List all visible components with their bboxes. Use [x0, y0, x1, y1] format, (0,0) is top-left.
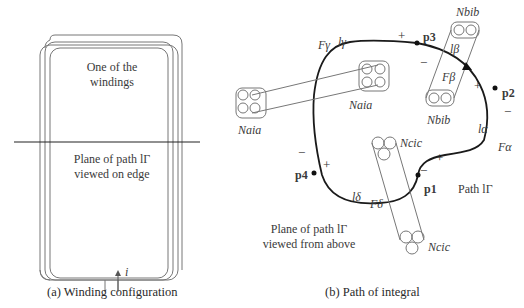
winding-b-bottom-label: Nbib — [427, 113, 450, 127]
segment-beta-l: lβ — [450, 42, 459, 56]
point-p4: p4 — [295, 168, 308, 182]
sign-minus-alpha: − — [504, 104, 511, 120]
plane-above-label-line1: Plane of path lΓ — [249, 222, 369, 236]
plane-edge-label-line1: Plane of path lΓ — [52, 152, 172, 166]
winding-b-top-label: Nbib — [456, 5, 479, 19]
current-label: i — [125, 265, 128, 279]
plane-above-label-line2: viewed from above — [249, 237, 369, 251]
sign-plus-gamma: + — [398, 28, 405, 44]
winding-c-top-label: Ncic — [400, 136, 422, 150]
sign-minus-gamma: − — [298, 145, 305, 161]
segment-alpha-F: Fα — [498, 140, 512, 154]
point-p3: p3 — [423, 30, 436, 44]
segment-delta-l: lδ — [352, 190, 361, 204]
sign-minus-beta: − — [420, 55, 427, 71]
integration-path — [313, 41, 487, 204]
plane-edge-label-line2: viewed on edge — [52, 167, 172, 181]
winding-a-right-label: Naia — [349, 98, 372, 112]
winding-c — [372, 137, 424, 254]
path-label: Path lΓ — [458, 182, 493, 196]
winding-c-bottom-label: Ncic — [428, 240, 450, 254]
caption-b: (b) Path of integral — [325, 285, 420, 300]
point-p2: p2 — [502, 86, 515, 100]
windings-label-line1: One of the — [62, 60, 162, 74]
path-points — [312, 41, 498, 178]
sign-minus-delta: − — [420, 163, 427, 179]
sign-plus-delta: + — [323, 157, 330, 173]
point-p1: p1 — [424, 182, 437, 196]
segment-gamma-l: lγ — [338, 35, 346, 49]
segment-delta-F: Fδ — [370, 197, 383, 211]
segment-alpha-l: lα — [478, 122, 488, 136]
winding-a-left-label: Naia — [238, 123, 261, 137]
sign-plus-beta: + — [474, 78, 481, 94]
segment-beta-F: Fβ — [442, 70, 455, 84]
current-arrow-head — [115, 270, 121, 276]
sign-plus-alpha: + — [436, 150, 443, 166]
caption-a: (a) Winding configuration — [47, 285, 177, 300]
windings-label-line2: windings — [62, 75, 162, 89]
segment-gamma-F: Fγ — [318, 38, 330, 52]
